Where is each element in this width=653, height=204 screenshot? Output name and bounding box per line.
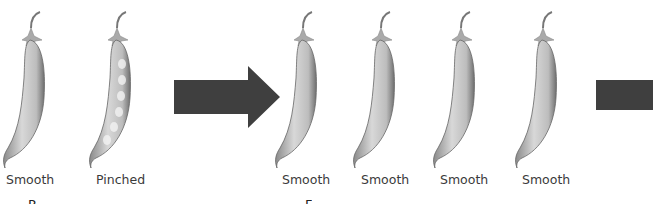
parental-caption: P: [28, 198, 36, 204]
pod-label: Smooth: [440, 172, 488, 187]
pod-label: Smooth: [522, 172, 570, 187]
smooth-pod-image: [272, 8, 332, 168]
pinched-pod-image: [86, 8, 146, 168]
smooth-pod-image: [430, 8, 490, 168]
smooth-pod-image: [512, 8, 572, 168]
smooth-pod-image: [0, 8, 60, 168]
pod-label: Smooth: [282, 172, 330, 187]
smooth-pod-image: [350, 8, 410, 168]
right-arrow-icon: [174, 66, 280, 128]
f1-caption: F: [305, 198, 312, 204]
pod-label: Smooth: [361, 172, 409, 187]
pod-label: Pinched: [96, 172, 145, 187]
right-arrow-icon: [596, 80, 653, 110]
pod-label: Smooth: [6, 172, 54, 187]
